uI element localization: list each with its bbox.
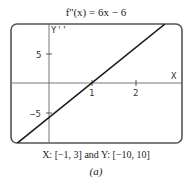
y-tick-label-neg5: −5 bbox=[30, 109, 41, 119]
x-axis-label: X bbox=[171, 71, 177, 81]
x-tick-label-1: 1 bbox=[89, 88, 94, 98]
y-tick-label-5: 5 bbox=[36, 50, 41, 60]
screen-frame bbox=[11, 24, 182, 143]
y-axis-label: Y'' bbox=[51, 25, 67, 35]
x-tick-label-2: 2 bbox=[133, 88, 138, 98]
window-caption: X: [−1, 3] and Y: [−10, 10] bbox=[0, 149, 192, 160]
figure-label: (a) bbox=[0, 165, 192, 177]
